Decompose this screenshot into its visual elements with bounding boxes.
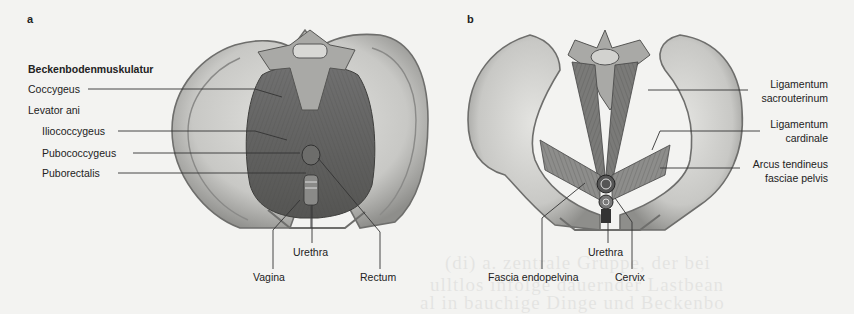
label-arcus-tendineus-line1: Arcus tendineus [730,158,828,170]
label-coccygeus: Coccygeus [28,83,80,95]
label-pubococcygeus: Pubococcygeus [42,147,116,159]
label-urethra-b: Urethra [588,246,623,258]
label-beckenbodenmuskulatur: Beckenbodenmuskulatur [28,63,153,75]
panel-b-letter: b [467,13,474,25]
label-rectum: Rectum [360,271,396,283]
panel-a-letter: a [27,13,33,25]
label-lig-cardinale-line1: Ligamentum [750,118,828,130]
label-arcus-tendineus-line2: fasciae pelvis [730,172,828,184]
label-lig-sacrouterinum-line1: Ligamentum [750,78,828,90]
label-lig-cardinale-line2: cardinale [750,132,828,144]
panel-b-pelvis-drawing [468,30,742,230]
panel-a-pelvis-drawing [172,30,428,228]
label-lig-sacrouterinum-line2: sacrouterinum [735,92,828,104]
label-vagina: Vagina [253,271,285,283]
label-urethra-a: Urethra [293,246,328,258]
label-cervix: Cervix [615,271,645,283]
label-levator-ani: Levator ani [28,104,80,116]
label-fascia-endopelvina: Fascia endopelvina [488,271,578,283]
label-puborectalis: Puborectalis [42,167,100,179]
label-iliococcygeus: Iliococcygeus [42,125,105,137]
